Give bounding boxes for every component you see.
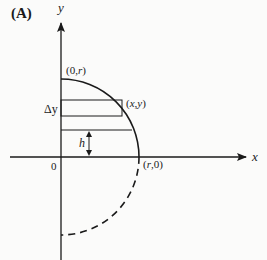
semicircle-diagram: (A) x y 0 h Δy (0,r) (x,y) (r,0) bbox=[0, 0, 267, 260]
curve-point-label: (x,y) bbox=[126, 97, 146, 110]
y-axis-label: y bbox=[56, 0, 64, 15]
top-point-label: (0,r) bbox=[66, 64, 86, 77]
x-axis-label: x bbox=[251, 149, 258, 164]
upper-arc bbox=[61, 79, 139, 157]
delta-y-label: Δy bbox=[44, 102, 58, 116]
arrow-down-icon bbox=[86, 150, 92, 156]
height-label: h bbox=[79, 136, 85, 150]
lower-dashed-arc bbox=[61, 157, 139, 235]
strip-rectangle bbox=[61, 100, 122, 116]
right-point-label: (r,0) bbox=[143, 158, 163, 171]
origin-label: 0 bbox=[51, 160, 57, 172]
arrow-up-icon bbox=[86, 131, 92, 137]
panel-label: (A) bbox=[11, 5, 32, 22]
